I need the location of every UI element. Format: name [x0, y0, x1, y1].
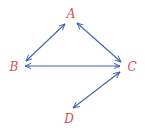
node-a-label: A: [67, 8, 76, 20]
node-d-label: D: [64, 113, 74, 125]
graph-diagram: A B C D: [0, 0, 145, 130]
edge-a-c: [77, 23, 121, 62]
node-c-label: C: [127, 61, 136, 73]
edge-c-d: [73, 72, 120, 108]
edge-a-b: [26, 24, 65, 61]
node-b-label: B: [10, 61, 19, 73]
